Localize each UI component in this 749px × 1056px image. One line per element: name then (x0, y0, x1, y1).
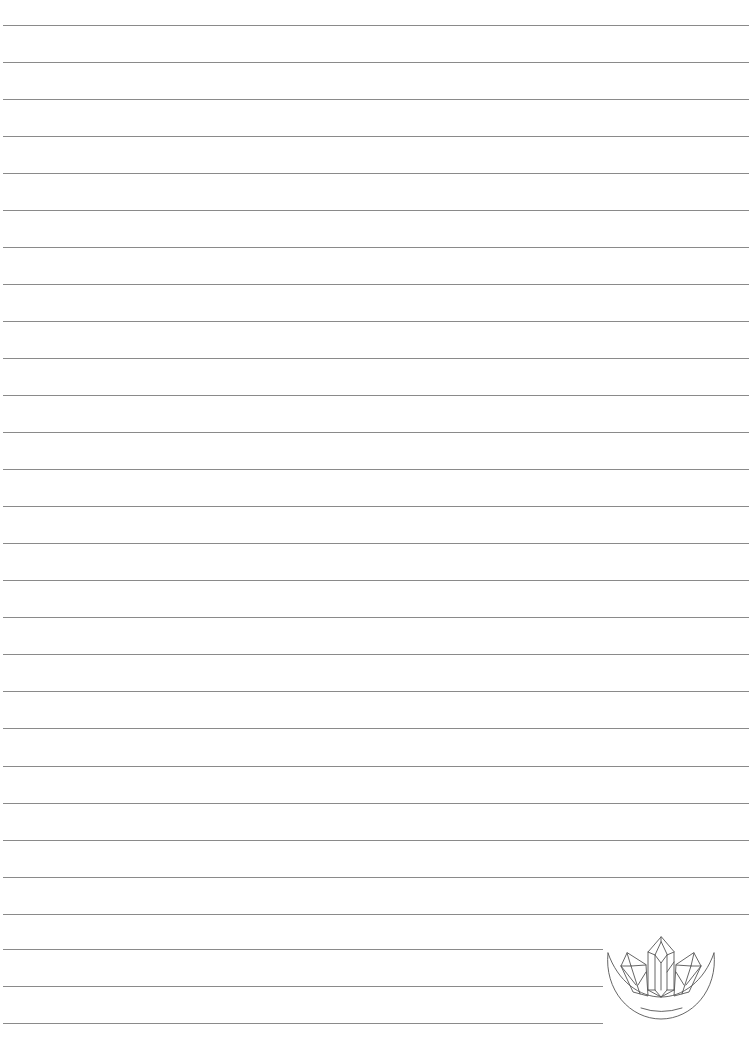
rule-line (3, 728, 749, 729)
rule-line (3, 840, 749, 841)
rule-line (3, 654, 749, 655)
rule-line (3, 210, 749, 211)
rule-line (3, 691, 749, 692)
rule-line (3, 914, 749, 915)
rule-line (3, 803, 749, 804)
rule-line (3, 99, 749, 100)
rule-line (3, 617, 749, 618)
rule-line (3, 247, 749, 248)
rule-line (3, 580, 749, 581)
rule-line (3, 543, 749, 544)
rule-line (3, 432, 749, 433)
rule-line (3, 358, 749, 359)
rule-line (3, 949, 603, 950)
rule-line (3, 506, 749, 507)
rule-line (3, 395, 749, 396)
rule-line (3, 173, 749, 174)
rule-line (3, 136, 749, 137)
rule-line (3, 25, 749, 26)
lined-page (0, 0, 749, 1056)
rule-line (3, 62, 749, 63)
rule-line (3, 321, 749, 322)
rule-line (3, 1023, 603, 1024)
rule-line (3, 469, 749, 470)
rule-line (3, 877, 749, 878)
rule-line (3, 766, 749, 767)
rule-line (3, 986, 603, 987)
rule-line (3, 284, 749, 285)
crystal-moon-icon (600, 930, 724, 1030)
